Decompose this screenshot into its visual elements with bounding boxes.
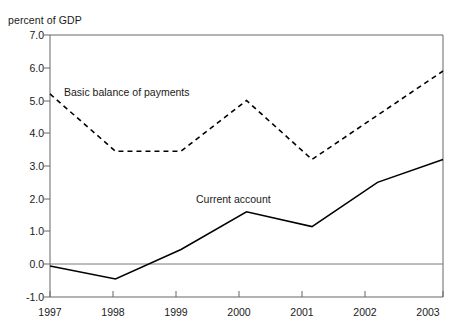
axis-lines — [50, 35, 443, 297]
plot-area — [0, 0, 454, 331]
chart-container: percent of GDP 7.0 6.0 5.0 4.0 3.0 2.0 1… — [0, 0, 454, 331]
x-axis-ticks — [50, 291, 443, 297]
series-current-account — [50, 159, 443, 279]
series-label-current-account: Current account — [196, 193, 271, 205]
y-axis-ticks — [44, 35, 50, 297]
series-label-basic-balance-of-payments: Basic balance of payments — [64, 86, 190, 98]
series-basic-balance-of-payments — [50, 71, 443, 159]
